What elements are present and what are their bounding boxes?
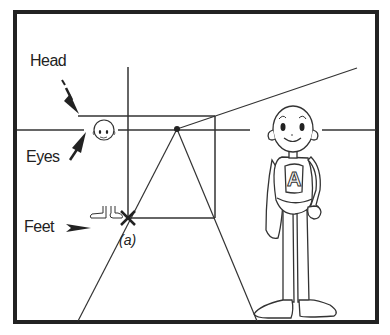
- ray-up: [177, 68, 357, 129]
- small-feet-icon: [90, 206, 122, 218]
- feet-arrow-icon: [66, 224, 91, 232]
- eyes-arrow-icon: [70, 132, 86, 160]
- label-eyes: Eyes: [26, 148, 60, 166]
- small-head-icon: [93, 120, 115, 140]
- vanishing-point: [174, 126, 180, 132]
- label-head: Head: [30, 52, 66, 70]
- frame-border: [15, 12, 377, 322]
- character-figure: [254, 106, 336, 318]
- ray-right: [177, 129, 257, 321]
- caption-a: (a): [119, 232, 136, 248]
- character-emblem-letter: A: [287, 168, 301, 191]
- head-arrow-icon: [62, 80, 79, 114]
- label-feet: Feet: [24, 218, 54, 236]
- perspective-diagram: [0, 0, 390, 335]
